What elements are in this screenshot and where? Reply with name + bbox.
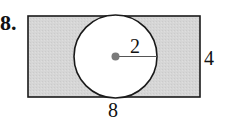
center-dot xyxy=(112,53,120,61)
radius-label: 2 xyxy=(130,35,140,57)
height-label: 4 xyxy=(204,47,214,69)
width-label: 8 xyxy=(108,99,118,121)
figure-diagram: 2 4 8 xyxy=(0,0,227,123)
